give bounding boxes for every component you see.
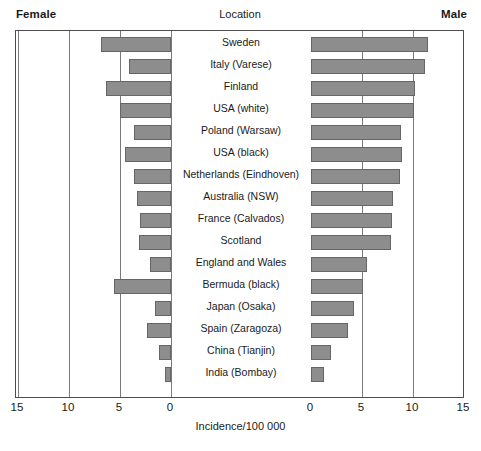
chart-row: USA (white)	[16, 100, 463, 122]
row-label: Sweden	[156, 36, 326, 48]
row-label: China (Tianjin)	[156, 344, 326, 356]
row-label: Bermuda (black)	[156, 278, 326, 290]
row-label: Netherlands (Eindhoven)	[156, 168, 326, 180]
chart-row: Sweden	[16, 34, 463, 56]
row-label: Finland	[156, 80, 326, 92]
chart-row: China (Tianjin)	[16, 342, 463, 364]
chart-row: Poland (Warsaw)	[16, 122, 463, 144]
header-female-label: Female	[16, 8, 56, 20]
chart-row: Bermuda (black)	[16, 276, 463, 298]
x-tick-label: 15	[457, 401, 470, 413]
chart-row: Finland	[16, 78, 463, 100]
x-tick-label: 0	[307, 401, 313, 413]
x-tick-label: 10	[62, 401, 75, 413]
x-axis-ticks: 151050051015	[0, 401, 481, 417]
x-axis-title: Incidence/100 000	[0, 420, 481, 432]
chart-row: Scotland	[16, 232, 463, 254]
row-label: England and Wales	[156, 256, 326, 268]
row-label: France (Calvados)	[156, 212, 326, 224]
row-label: USA (black)	[156, 146, 326, 158]
header-location-label: Location	[170, 8, 310, 20]
chart-row: Japan (Osaka)	[16, 298, 463, 320]
bar-male	[311, 103, 414, 118]
row-label: Scotland	[156, 234, 326, 246]
chart-row: Netherlands (Eindhoven)	[16, 166, 463, 188]
x-tick-label: 0	[167, 401, 173, 413]
x-tick-label: 5	[358, 401, 364, 413]
row-label: Italy (Varese)	[156, 58, 326, 70]
chart-row: England and Wales	[16, 254, 463, 276]
x-tick-label: 5	[116, 401, 122, 413]
row-label: Australia (NSW)	[156, 190, 326, 202]
bar-rows: SwedenItaly (Varese)FinlandUSA (white)Po…	[16, 31, 463, 397]
chart-row: Italy (Varese)	[16, 56, 463, 78]
chart-row: France (Calvados)	[16, 210, 463, 232]
row-label: Spain (Zaragoza)	[156, 322, 326, 334]
plot-area: SwedenItaly (Varese)FinlandUSA (white)Po…	[15, 30, 464, 398]
chart-header: Female Location Male	[0, 8, 481, 28]
bar-male	[311, 59, 425, 74]
x-tick-label: 15	[11, 401, 24, 413]
chart-row: India (Bombay)	[16, 364, 463, 386]
row-label: USA (white)	[156, 102, 326, 114]
bar-male	[311, 81, 415, 96]
row-label: Japan (Osaka)	[156, 300, 326, 312]
row-label: Poland (Warsaw)	[156, 124, 326, 136]
header-male-label: Male	[441, 8, 467, 20]
bar-male	[311, 37, 428, 52]
chart-row: Spain (Zaragoza)	[16, 320, 463, 342]
row-label: India (Bombay)	[156, 366, 326, 378]
chart-row: Australia (NSW)	[16, 188, 463, 210]
chart-row: USA (black)	[16, 144, 463, 166]
x-tick-label: 10	[406, 401, 419, 413]
